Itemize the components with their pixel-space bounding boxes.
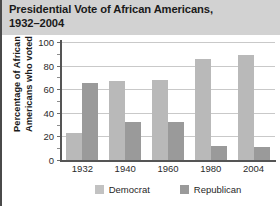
bar-republican-1960: [168, 122, 184, 160]
bar-group-1940: [109, 42, 141, 160]
bars-container: [61, 42, 275, 160]
plot-area: Percentage of African Americans who vote…: [2, 35, 280, 206]
bar-republican-1980: [211, 146, 227, 160]
bar-group-2004: [238, 42, 270, 160]
bar-democrat-1940: [109, 81, 125, 160]
chart-legend: Democrat Republican: [61, 184, 275, 195]
bar-group-1980: [195, 42, 227, 160]
x-tick-label-1980: 1980: [194, 163, 228, 174]
bar-republican-1932: [82, 83, 98, 160]
bar-democrat-2004: [238, 55, 254, 160]
y-axis-tick-labels: 100 80 60 40 20 0: [24, 35, 54, 206]
y-tick-label: 100: [28, 37, 54, 48]
legend-swatch-democrat-icon: [95, 185, 104, 194]
x-tick-label-1960: 1960: [151, 163, 185, 174]
y-tick-label: 20: [28, 131, 54, 142]
legend-entry-republican: Republican: [180, 184, 242, 195]
bar-democrat-1932: [66, 133, 82, 160]
chart-figure: Presidential Vote of African Americans, …: [0, 0, 280, 206]
bar-group-1932: [66, 42, 98, 160]
legend-label-democrat: Democrat: [109, 184, 150, 195]
x-tick-label-1932: 1932: [65, 163, 99, 174]
bar-democrat-1960: [152, 80, 168, 160]
legend-entry-democrat: Democrat: [95, 184, 150, 195]
chart-title-band: Presidential Vote of African Americans, …: [2, 0, 280, 35]
y-tick-label: 40: [28, 107, 54, 118]
bar-democrat-1980: [195, 59, 211, 161]
bar-group-1960: [152, 42, 184, 160]
y-tick-label: 0: [28, 155, 54, 166]
legend-swatch-republican-icon: [180, 185, 189, 194]
x-axis-tick-labels: 1932 1940 1960 1980 2004: [61, 163, 275, 174]
legend-label-republican: Republican: [194, 184, 242, 195]
bar-republican-1940: [125, 122, 141, 160]
x-tick-label-1940: 1940: [108, 163, 142, 174]
y-tick-label: 60: [28, 84, 54, 95]
x-axis-line: [60, 160, 276, 162]
bar-republican-2004: [254, 147, 270, 160]
x-tick-label-2004: 2004: [237, 163, 271, 174]
page-title: Presidential Vote of African Americans, …: [9, 3, 276, 30]
y-tick-label: 80: [28, 60, 54, 71]
